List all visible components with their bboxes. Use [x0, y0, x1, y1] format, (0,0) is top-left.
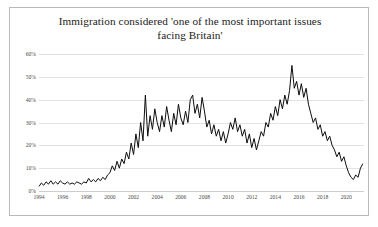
x-axis-tick-label: 2014	[270, 194, 281, 200]
x-axis-tick-label: 2008	[199, 194, 210, 200]
y-axis-tick-label: 30%	[14, 120, 36, 126]
chart-card: Immigration considered 'one of the most …	[9, 7, 369, 216]
y-axis-tick-labels: 0%10%20%30%40%50%60%	[14, 8, 36, 217]
x-axis-tick-label: 1998	[81, 194, 92, 200]
x-axis-tick-label: 2002	[128, 194, 139, 200]
y-axis-tick-label: 50%	[14, 74, 36, 80]
x-axis-tick-labels: 1994199619982000200220042006200820102012…	[39, 194, 364, 206]
y-axis-tick-label: 20%	[14, 142, 36, 148]
series-polyline	[39, 65, 363, 186]
plot-area: 0%10%20%30%40%50%60% 1994199619982000200…	[10, 8, 370, 217]
axis-baseline	[39, 191, 364, 192]
x-axis-tick-label: 2006	[175, 194, 186, 200]
x-axis-tick-label: 2016	[293, 194, 304, 200]
x-axis-tick-label: 1994	[33, 194, 44, 200]
y-axis-tick-label: 10%	[14, 165, 36, 171]
x-axis-tick-label: 2018	[317, 194, 328, 200]
y-axis-tick-label: 40%	[14, 97, 36, 103]
y-axis-tick-label: 60%	[14, 51, 36, 57]
x-axis-tick-label: 2012	[246, 194, 257, 200]
x-axis-tick-label: 2020	[341, 194, 352, 200]
line-series	[39, 54, 364, 191]
x-axis-tick-label: 2004	[152, 194, 163, 200]
x-axis-tick-label: 2010	[222, 194, 233, 200]
x-axis-tick-label: 2000	[104, 194, 115, 200]
x-axis-tick-label: 1996	[57, 194, 68, 200]
